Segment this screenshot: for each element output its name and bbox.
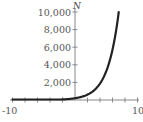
exponential-chart: 2,0004,0006,0008,00010,000 N -10 10 <box>0 0 143 122</box>
x-min-label: -10 <box>2 105 17 116</box>
y-tick-label: 10,000 <box>38 7 71 18</box>
y-ticks: 2,0004,0006,0008,00010,000 <box>38 7 78 88</box>
x-max-label: 10 <box>132 105 143 116</box>
y-axis-title: N <box>72 1 82 11</box>
y-tick-label: 2,000 <box>44 77 71 88</box>
y-tick-label: 8,000 <box>44 24 71 35</box>
y-tick-label: 4,000 <box>44 59 71 70</box>
y-tick-label: 6,000 <box>44 42 71 53</box>
